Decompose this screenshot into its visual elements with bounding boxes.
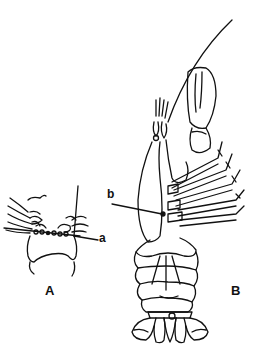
panel-label-b: B	[231, 284, 240, 297]
pointer-label-b: b	[107, 188, 114, 200]
panel-label-a: A	[45, 284, 54, 297]
panel-a-drawing	[4, 186, 98, 276]
crayfish-figure	[0, 0, 256, 352]
panel-b-drawing	[112, 20, 244, 343]
pointer-label-a: a	[99, 232, 106, 244]
